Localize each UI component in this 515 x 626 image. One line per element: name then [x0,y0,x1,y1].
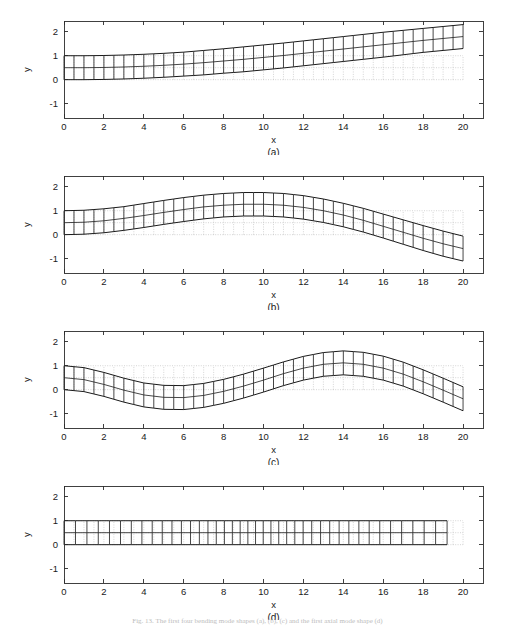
y-axis-title: y [21,377,32,382]
x-tick-label: 10 [258,276,269,287]
x-tick-label: 16 [378,121,389,132]
y-tick-label: 0 [53,74,58,85]
x-tick-label: 18 [418,431,429,442]
subplot-d: 02468101214161820-1012yx(d) [0,465,515,620]
y-tick-label: 1 [53,50,58,61]
x-tick-label: 0 [61,276,66,287]
axis-ticks: 02468101214161820-1012 [50,331,483,442]
x-tick-label: 8 [221,276,226,287]
x-tick-label: 20 [458,276,469,287]
axis-ticks: 02468101214161820-1012 [50,21,483,132]
x-tick-label: 18 [418,121,429,132]
x-tick-label: 20 [458,431,469,442]
deformed-mesh [64,25,463,80]
x-tick-label: 4 [141,431,146,442]
x-axis-title: x [271,444,276,455]
deformed-mesh [64,351,463,411]
x-tick-label: 6 [181,121,186,132]
y-tick-label: -1 [50,408,58,419]
subplot-label: (a) [267,147,279,155]
y-tick-label: -1 [50,253,58,264]
x-axis-title: x [271,289,276,300]
x-tick-label: 4 [141,121,146,132]
x-tick-label: 12 [298,586,309,597]
x-tick-label: 2 [101,276,106,287]
x-tick-label: 14 [338,586,349,597]
y-tick-label: 2 [53,491,58,502]
y-tick-label: 2 [53,336,58,347]
x-tick-label: 16 [378,586,389,597]
y-tick-label: 1 [53,360,58,371]
x-tick-label: 14 [338,276,349,287]
x-tick-label: 14 [338,431,349,442]
figure-container: 02468101214161820-1012yx(a) 024681012141… [0,0,515,626]
y-tick-label: 0 [53,384,58,395]
y-tick-label: 1 [53,515,58,526]
x-tick-label: 10 [258,586,269,597]
x-tick-label: 0 [61,121,66,132]
x-tick-label: 14 [338,121,349,132]
y-axis-title: y [21,222,32,227]
x-tick-label: 8 [221,431,226,442]
x-tick-label: 4 [141,586,146,597]
x-tick-label: 6 [181,276,186,287]
x-tick-label: 0 [61,586,66,597]
y-axis-title: y [21,532,32,537]
x-tick-label: 8 [221,121,226,132]
y-tick-label: 0 [53,229,58,240]
x-tick-label: 10 [258,431,269,442]
deformed-mesh [64,521,447,545]
x-tick-label: 12 [298,121,309,132]
y-tick-label: 0 [53,539,58,550]
x-tick-label: 4 [141,276,146,287]
x-tick-label: 16 [378,431,389,442]
x-tick-label: 2 [101,121,106,132]
subplot-b: 02468101214161820-1012yx(b) [0,155,515,310]
x-tick-label: 8 [221,586,226,597]
x-tick-label: 18 [418,586,429,597]
x-tick-label: 6 [181,586,186,597]
figure-caption: Fig. 13. The first four bending mode sha… [0,617,515,626]
x-axis-title: x [271,599,276,610]
subplot-label: (b) [267,302,279,310]
y-tick-label: -1 [50,563,58,574]
subplot-c: 02468101214161820-1012yx(c) [0,310,515,465]
x-tick-label: 2 [101,431,106,442]
x-tick-label: 2 [101,586,106,597]
y-tick-label: -1 [50,98,58,109]
axis-ticks: 02468101214161820-1012 [50,486,483,597]
y-tick-label: 1 [53,205,58,216]
subplot-label: (c) [268,457,280,465]
y-axis-title: y [21,67,32,72]
x-tick-label: 12 [298,276,309,287]
x-tick-label: 0 [61,431,66,442]
y-tick-label: 2 [53,181,58,192]
x-tick-label: 10 [258,121,269,132]
x-tick-label: 20 [458,586,469,597]
x-tick-label: 18 [418,276,429,287]
x-tick-label: 16 [378,276,389,287]
y-tick-label: 2 [53,26,58,37]
x-axis-title: x [271,134,276,145]
subplot-a: 02468101214161820-1012yx(a) [0,0,515,155]
x-tick-label: 20 [458,121,469,132]
x-tick-label: 6 [181,431,186,442]
x-tick-label: 12 [298,431,309,442]
